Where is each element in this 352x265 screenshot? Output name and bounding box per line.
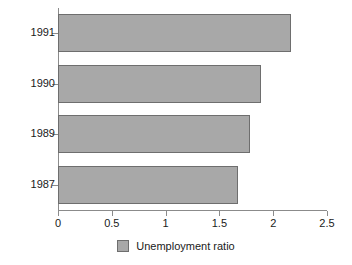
bar-1991 (58, 14, 291, 52)
y-tick-label-1989: 1989 (31, 128, 55, 139)
bar-chart: 1991199019891987 00.511.522.5 Unemployme… (0, 0, 352, 265)
x-tick-label-1.5: 1.5 (212, 218, 227, 229)
bar-1990 (58, 65, 261, 103)
bar-1987 (58, 166, 238, 204)
legend-swatch (117, 240, 129, 252)
x-tick-2.5 (327, 211, 328, 216)
y-tick-label-1990: 1990 (31, 78, 55, 89)
x-axis-line (58, 210, 327, 211)
bar-row (58, 166, 327, 204)
x-tick-label-0: 0 (55, 218, 61, 229)
x-tick-label-0.5: 0.5 (104, 218, 119, 229)
legend-label: Unemployment ratio (136, 241, 234, 252)
x-tick-label-1: 1 (163, 218, 169, 229)
chart-legend: Unemployment ratio (0, 240, 352, 252)
y-tick-label-1987: 1987 (31, 179, 55, 190)
x-tick-1 (166, 211, 167, 216)
x-tick-1.5 (219, 211, 220, 216)
y-tick-label-1991: 1991 (31, 27, 55, 38)
bar-row (58, 115, 327, 153)
x-tick-0 (58, 211, 59, 216)
bar-1989 (58, 115, 250, 153)
plot-area (58, 8, 327, 210)
x-tick-0.5 (112, 211, 113, 216)
x-tick-label-2: 2 (270, 218, 276, 229)
x-tick-label-2.5: 2.5 (319, 218, 334, 229)
bar-row (58, 65, 327, 103)
x-tick-2 (273, 211, 274, 216)
bar-row (58, 14, 327, 52)
